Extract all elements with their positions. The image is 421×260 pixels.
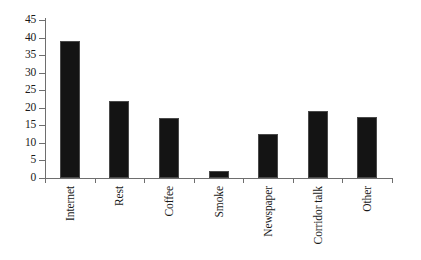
y-axis-tick-label: 15 bbox=[0, 119, 36, 131]
x-axis-tick bbox=[95, 178, 96, 183]
y-axis-tick-label: 25 bbox=[0, 84, 36, 96]
bar bbox=[357, 117, 377, 178]
x-axis-tick bbox=[293, 178, 294, 183]
y-axis-tick-label: 45 bbox=[0, 14, 36, 26]
y-axis-tick-label: 30 bbox=[0, 67, 36, 79]
x-axis-tick-label: Coffee bbox=[163, 186, 175, 216]
y-axis-tick-label: 0 bbox=[0, 172, 36, 184]
x-axis-tick-label: Smoke bbox=[213, 186, 225, 217]
x-axis-tick bbox=[392, 178, 393, 183]
x-axis-tick-label: Rest bbox=[113, 186, 125, 206]
bar bbox=[209, 171, 229, 178]
bar bbox=[258, 134, 278, 178]
bar-chart: 051015202530354045 InternetRestCoffeeSmo… bbox=[0, 0, 421, 260]
x-axis-line bbox=[45, 178, 392, 179]
bar bbox=[308, 111, 328, 178]
bar bbox=[60, 41, 80, 178]
y-axis-tick-label: 35 bbox=[0, 49, 36, 61]
bar bbox=[159, 118, 179, 178]
x-axis-tick-label: Internet bbox=[64, 186, 76, 221]
y-axis-tick-label: 40 bbox=[0, 32, 36, 44]
y-axis-tick-label: 20 bbox=[0, 102, 36, 114]
y-axis-tick-label: 10 bbox=[0, 137, 36, 149]
x-axis-tick-label: Newspaper bbox=[262, 186, 274, 237]
bar-series bbox=[45, 20, 392, 178]
bar bbox=[109, 101, 129, 178]
x-axis-tick bbox=[144, 178, 145, 183]
x-axis-tick bbox=[342, 178, 343, 183]
x-axis-tick bbox=[45, 178, 46, 183]
x-axis-tick-label: Corridor talk bbox=[312, 186, 324, 244]
y-axis-tick-label: 5 bbox=[0, 154, 36, 166]
x-axis-tick bbox=[194, 178, 195, 183]
x-axis-tick-label: Other bbox=[361, 186, 373, 212]
x-axis-tick bbox=[243, 178, 244, 183]
